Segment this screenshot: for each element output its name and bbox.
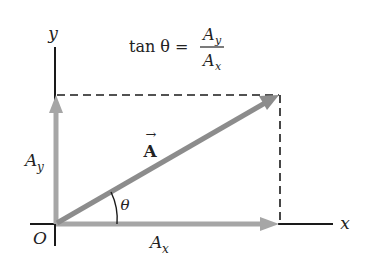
vector-label: A	[142, 141, 157, 161]
angle-arc	[111, 192, 117, 224]
vector-arrow-symbol: →	[146, 127, 157, 142]
ay-subscript: y	[36, 160, 44, 174]
y-axis-label: y	[47, 23, 58, 43]
tan-formula: tan θ = A y A x	[129, 25, 224, 73]
ay-label: A	[23, 150, 37, 170]
formula-numerator-sub: y	[214, 34, 222, 47]
vector-a	[57, 103, 265, 223]
ax-subscript: x	[162, 242, 169, 256]
ax-arrowhead	[260, 217, 279, 231]
ay-arrowhead	[49, 95, 63, 113]
formula-lhs: tan θ =	[129, 37, 188, 56]
x-axis-label: x	[340, 213, 350, 233]
formula-numerator: A	[201, 25, 215, 44]
ax-label: A	[148, 232, 162, 252]
vector-components-diagram: y x O θ → A A y A x tan θ = A y A x	[0, 0, 368, 267]
formula-denominator-sub: x	[215, 60, 222, 73]
formula-denominator: A	[201, 51, 215, 70]
origin-label: O	[33, 228, 47, 248]
theta-label: θ	[120, 196, 129, 214]
